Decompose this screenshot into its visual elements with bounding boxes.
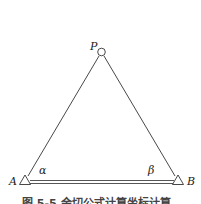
label-b: B bbox=[186, 175, 195, 188]
point-b-triangle-icon bbox=[173, 175, 184, 185]
side-ap bbox=[28, 56, 99, 176]
figure-caption: 图 5-5 余切公式计算坐标计算 bbox=[22, 196, 171, 204]
label-a: A bbox=[8, 175, 17, 188]
label-beta: β bbox=[147, 164, 154, 177]
point-p-circle-icon bbox=[98, 48, 106, 56]
label-alpha: α bbox=[39, 164, 47, 177]
intersection-diagram: P A B α β 图 5-5 余切公式计算坐标计算 bbox=[0, 0, 201, 204]
side-bp bbox=[104, 56, 175, 176]
point-a-triangle-icon bbox=[20, 175, 31, 185]
label-p: P bbox=[89, 40, 98, 53]
